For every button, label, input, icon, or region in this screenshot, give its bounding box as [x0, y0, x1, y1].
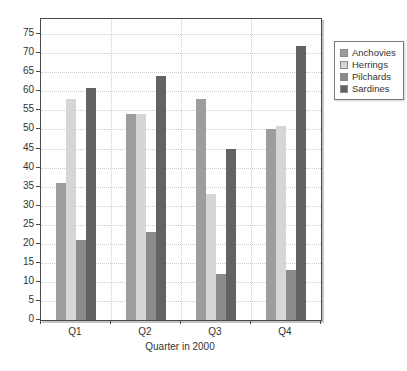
- legend-swatch-pilchards: [340, 73, 348, 81]
- legend-item-herrings: Herrings: [340, 59, 396, 70]
- y-tick-label: 70: [4, 47, 34, 57]
- y-tick-label: 20: [4, 238, 34, 248]
- plot-area: [40, 18, 322, 321]
- y-tick-mark: [36, 243, 40, 244]
- y-tick-mark: [36, 71, 40, 72]
- bar-herrings-q4: [276, 126, 286, 320]
- y-tick-label: 30: [4, 200, 34, 210]
- legend-item-pilchards: Pilchards: [340, 71, 396, 82]
- x-tick-mark: [250, 320, 251, 324]
- legend-label-pilchards: Pilchards: [352, 72, 391, 82]
- bar-anchovies-q4: [266, 129, 276, 320]
- x-axis-title: Quarter in 2000: [40, 341, 320, 352]
- y-tick-mark: [36, 128, 40, 129]
- y-tick-label: 10: [4, 276, 34, 286]
- y-tick-label: 0: [4, 314, 34, 324]
- y-tick-mark: [36, 300, 40, 301]
- bar-anchovies-q3: [196, 99, 206, 320]
- legend-swatch-herrings: [340, 61, 348, 69]
- y-tick-label: 40: [4, 162, 34, 172]
- legend-item-anchovies: Anchovies: [340, 47, 396, 58]
- y-tick-mark: [36, 205, 40, 206]
- x-category-label-q3: Q3: [180, 326, 250, 337]
- v-gridline: [181, 19, 182, 320]
- y-tick-mark: [36, 52, 40, 53]
- y-tick-mark: [36, 90, 40, 91]
- bar-herrings-q1: [66, 99, 76, 320]
- bar-herrings-q2: [136, 114, 146, 320]
- y-tick-mark: [36, 186, 40, 187]
- legend-item-sardines: Sardines: [340, 83, 396, 94]
- bar-herrings-q3: [206, 194, 216, 320]
- legend-swatch-anchovies: [340, 49, 348, 57]
- y-tick-mark: [36, 148, 40, 149]
- y-tick-label: 50: [4, 123, 34, 133]
- y-tick-mark: [36, 167, 40, 168]
- y-tick-mark: [36, 109, 40, 110]
- y-tick-label: 75: [4, 28, 34, 38]
- y-tick-label: 65: [4, 66, 34, 76]
- bar-chart: 051015202530354045505560657075 Q1Q2Q3Q4 …: [0, 0, 407, 371]
- legend-label-sardines: Sardines: [352, 84, 390, 94]
- y-tick-mark: [36, 281, 40, 282]
- y-tick-label: 55: [4, 104, 34, 114]
- legend-swatch-sardines: [340, 85, 348, 93]
- y-tick-mark: [36, 224, 40, 225]
- bar-pilchards-q1: [76, 240, 86, 320]
- bar-sardines-q2: [156, 76, 166, 320]
- legend-label-anchovies: Anchovies: [352, 48, 396, 58]
- bar-pilchards-q2: [146, 232, 156, 320]
- bar-sardines-q4: [296, 46, 306, 320]
- y-tick-mark: [36, 33, 40, 34]
- y-tick-label: 35: [4, 181, 34, 191]
- x-tick-mark: [180, 320, 181, 324]
- y-tick-label: 5: [4, 295, 34, 305]
- x-tick-mark: [40, 320, 41, 324]
- x-category-label-q2: Q2: [110, 326, 180, 337]
- y-tick-label: 25: [4, 219, 34, 229]
- x-category-label-q1: Q1: [40, 326, 110, 337]
- legend-label-herrings: Herrings: [352, 60, 388, 70]
- x-tick-mark: [320, 320, 321, 324]
- y-tick-label: 15: [4, 257, 34, 267]
- bar-sardines-q1: [86, 88, 96, 320]
- legend: AnchoviesHerringsPilchardsSardines: [334, 41, 404, 100]
- v-gridline: [251, 19, 252, 320]
- y-tick-label: 45: [4, 143, 34, 153]
- x-tick-mark: [110, 320, 111, 324]
- bar-anchovies-q1: [56, 183, 66, 320]
- x-category-label-q4: Q4: [250, 326, 320, 337]
- bar-pilchards-q3: [216, 274, 226, 320]
- v-gridline: [111, 19, 112, 320]
- bar-sardines-q3: [226, 149, 236, 320]
- bar-anchovies-q2: [126, 114, 136, 320]
- y-tick-mark: [36, 262, 40, 263]
- bar-pilchards-q4: [286, 270, 296, 320]
- y-tick-label: 60: [4, 85, 34, 95]
